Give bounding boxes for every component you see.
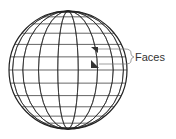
sphere-diagram	[0, 0, 176, 139]
face-triangle-upper	[91, 47, 98, 53]
face-triangle-lower	[91, 60, 99, 68]
faces-label: Faces	[135, 52, 165, 63]
